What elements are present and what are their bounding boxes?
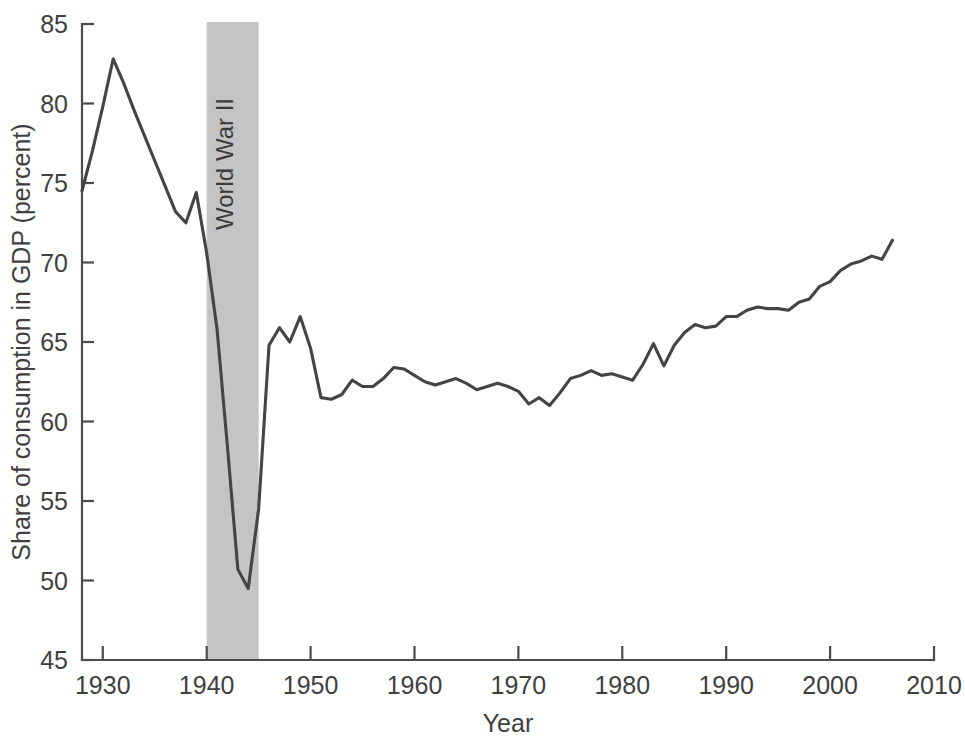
y-tick-label: 70 (40, 249, 68, 277)
world-war-ii-label: World War II (211, 98, 238, 230)
x-tick-label: 1970 (491, 671, 547, 699)
x-tick-label: 1990 (698, 671, 754, 699)
x-axis-title: Year (483, 709, 534, 736)
y-axis-ticks: 455055606570758085 (40, 10, 94, 674)
y-tick-label: 65 (40, 328, 68, 356)
x-tick-label: 2010 (906, 671, 962, 699)
x-tick-label: 1940 (179, 671, 235, 699)
y-tick-label: 50 (40, 567, 68, 595)
y-tick-label: 75 (40, 169, 68, 197)
y-tick-label: 45 (40, 646, 68, 674)
x-tick-label: 2000 (802, 671, 858, 699)
y-tick-label: 60 (40, 408, 68, 436)
x-tick-label: 1960 (387, 671, 443, 699)
y-axis-title: Share of consumption in GDP (percent) (7, 123, 35, 560)
axes: 455055606570758085 193019401950196019701… (40, 10, 962, 699)
y-tick-label: 55 (40, 487, 68, 515)
x-tick-label: 1930 (75, 671, 131, 699)
data-series-group (82, 59, 892, 588)
y-tick-label: 85 (40, 10, 68, 38)
consumption-share-line (82, 59, 892, 588)
x-tick-label: 1980 (594, 671, 650, 699)
x-tick-label: 1950 (283, 671, 339, 699)
chart-figure: World War II 455055606570758085 19301940… (0, 0, 965, 736)
chart-canvas: World War II 455055606570758085 19301940… (0, 0, 965, 736)
y-tick-label: 80 (40, 90, 68, 118)
